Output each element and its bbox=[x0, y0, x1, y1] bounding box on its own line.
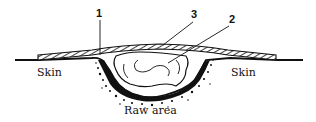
label-raw-area: Raw area bbox=[124, 105, 177, 116]
label-skin-right: Skin bbox=[231, 67, 256, 78]
callout-2: 2 bbox=[229, 14, 235, 25]
label-skin-left: Skin bbox=[37, 67, 62, 78]
leader-3 bbox=[163, 22, 193, 45]
callout-3: 3 bbox=[191, 9, 197, 20]
callout-1: 1 bbox=[96, 8, 102, 19]
diagram-canvas: 1 3 2 Skin Skin Raw area bbox=[0, 0, 316, 122]
